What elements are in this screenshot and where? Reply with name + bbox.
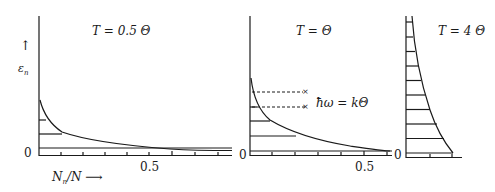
svg-text:×: × <box>302 102 309 111</box>
energy-quantum-annotation: ħω = kΘ <box>316 96 368 110</box>
panel2-ticks <box>272 151 387 155</box>
panel2-tick-label: 0.5 <box>355 160 374 174</box>
y-axis-label: εn <box>18 62 28 77</box>
x-axis-label: Nn/N ⟶ <box>52 170 103 186</box>
panel2-title: T = Θ <box>296 24 332 38</box>
y-axis-arrow-icon: ↑ <box>20 38 31 53</box>
panel3-ticks <box>430 154 452 157</box>
panel3-levels <box>406 22 453 153</box>
panel1-tick-label: 0.5 <box>140 160 159 174</box>
panel3-origin-label: 0 <box>394 148 402 162</box>
figure-plot: × × <box>0 0 495 192</box>
panel2-curve <box>251 78 392 151</box>
panel1-curve <box>40 100 232 151</box>
svg-text:×: × <box>302 87 309 96</box>
panel1-ticks <box>61 151 218 155</box>
dashed-level-markers: × × <box>302 87 309 111</box>
panel1-title: T = 0.5 Θ <box>92 24 150 38</box>
panel2-dashed-levels <box>252 92 305 107</box>
panel2-origin-label: 0 <box>239 148 247 162</box>
panel3-title: T = 4 Θ <box>438 24 485 38</box>
panel2-levels <box>250 107 390 151</box>
panel1-origin-label: 0 <box>24 146 32 160</box>
